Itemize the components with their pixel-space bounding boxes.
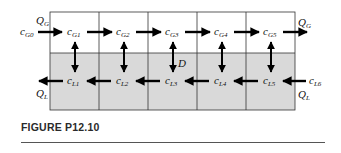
diffusion-label: D [177,57,186,69]
c-g0-label: cG0 [20,25,34,39]
figure-caption: FIGURE P12.10 [21,121,99,133]
q-l-outlet-label: QL [36,87,48,101]
q-l-inlet-label: QL [298,88,310,102]
q-g-inlet-label: QG [36,14,49,28]
c-l6-label: cL6 [309,74,322,88]
q-g-outlet-label: QG [298,16,311,30]
countercurrent-stage-diagram: QG cG0 cG1 cG2 cG3 cG4 cG5 QG D cL1 cL2 … [0,0,341,120]
caption-rule [21,142,325,143]
